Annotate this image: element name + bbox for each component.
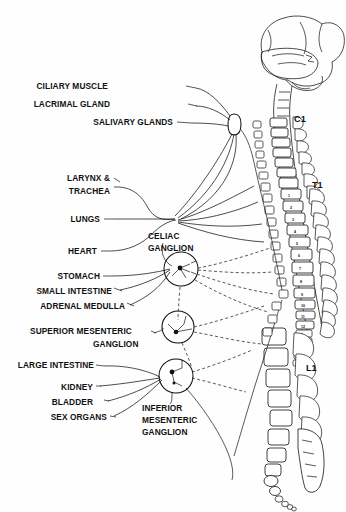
label-lacrimal-gland: LACRIMAL GLAND — [34, 99, 110, 109]
preganglionic-fibers-infmes — [192, 350, 252, 392]
pelvic-descending-fiber — [186, 388, 233, 480]
label-celiac-ganglion-line1: CELIAC — [148, 231, 179, 241]
svg-text:9: 9 — [301, 293, 303, 297]
label-l1: L1 — [306, 363, 317, 373]
label-larynx-trachea-line1: LARYNX & — [67, 173, 110, 183]
anatomy-diagram: 1 2 3 4 5 6 7 8 9 10 11 12 1 2 3 4 5 — [0, 0, 346, 512]
coccyx — [275, 496, 296, 511]
inferior-mesenteric-ganglion — [159, 359, 193, 393]
label-heart: HEART — [68, 246, 97, 256]
label-large-intestine: LARGE INTESTINE — [18, 360, 95, 370]
svg-text:6: 6 — [298, 254, 300, 258]
brain-icon — [261, 16, 344, 91]
sacrum — [298, 429, 324, 492]
label-lungs: LUNGS — [70, 214, 100, 224]
svg-text:10: 10 — [301, 304, 305, 308]
thoracic-vertebrae — [281, 189, 315, 329]
svg-text:11: 11 — [301, 315, 305, 319]
svg-text:1: 1 — [288, 194, 290, 198]
lumbar-vertebrae — [262, 328, 292, 426]
svg-text:8: 8 — [300, 280, 302, 284]
label-sup-mesenteric-line2: GANGLION — [93, 339, 139, 349]
label-t1: T1 — [312, 180, 323, 190]
label-inf-mesenteric-line1: INFERIOR — [142, 403, 182, 413]
label-stomach: STOMACH — [58, 271, 101, 281]
preganglionic-fibers-supmes — [194, 306, 264, 344]
svg-text:3: 3 — [292, 218, 294, 222]
lumbar-processes — [293, 333, 322, 444]
label-adrenal-medulla: ADRENAL MEDULLA — [40, 301, 125, 311]
cranial-outflow-fibers — [175, 88, 236, 219]
label-salivary-glands: SALIVARY GLANDS — [93, 117, 173, 127]
label-sup-mesenteric-line1: SUPERIOR MESENTERIC — [30, 326, 132, 336]
label-larynx-trachea-line2: TRACHEA — [69, 186, 110, 196]
svg-text:4: 4 — [294, 230, 296, 234]
label-sex-organs: SEX ORGANS — [51, 412, 108, 422]
preganglionic-fibers-celiac — [195, 248, 274, 312]
label-bladder: BLADDER — [52, 397, 93, 407]
thoracic-organ-fibers — [110, 186, 264, 251]
label-celiac-ganglion-line2: GANGLION — [148, 243, 194, 253]
celiac-organ-fibers — [111, 269, 170, 305]
svg-text:5: 5 — [296, 242, 298, 246]
sacral-vertebrae — [264, 429, 289, 496]
label-inf-mesenteric-line3: GANGLION — [142, 427, 188, 437]
svg-text:12: 12 — [301, 325, 305, 329]
label-c1: C1 — [294, 114, 306, 124]
svg-text:7: 7 — [299, 267, 301, 271]
label-small-intestine: SMALL INTESTINE — [36, 286, 112, 296]
label-kidney: KIDNEY — [61, 382, 93, 392]
svg-text:2: 2 — [290, 206, 292, 210]
label-ciliary-muscle: CILIARY MUSCLE — [37, 81, 109, 91]
label-inf-mesenteric-line2: MESENTERIC — [142, 415, 197, 425]
